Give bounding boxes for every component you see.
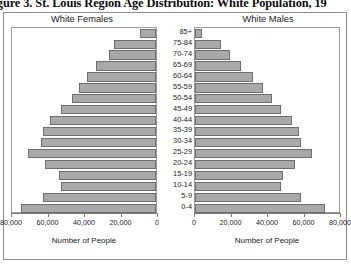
bar-row — [195, 39, 339, 50]
bar — [195, 204, 325, 213]
bar — [195, 182, 281, 191]
age-group-label: 25-29 — [157, 147, 192, 158]
bar-row — [12, 116, 156, 127]
bar-row — [12, 159, 156, 170]
bar — [195, 116, 292, 125]
x-axis-tick — [304, 213, 305, 217]
bar-row — [12, 192, 156, 203]
bar — [195, 72, 253, 81]
panel-heading-white-males: White Males — [192, 14, 344, 24]
bar-row — [195, 181, 339, 192]
plot-area-white-males — [194, 27, 340, 213]
x-axis-tick-label: 0 — [192, 218, 196, 227]
x-axis-tick-label: 60,000 — [37, 218, 59, 227]
bar — [61, 182, 156, 191]
bar — [195, 171, 283, 180]
bar-row — [12, 39, 156, 50]
bar — [28, 149, 156, 158]
bar — [140, 29, 156, 38]
age-group-label: 0-4 — [157, 202, 192, 213]
bar-row — [12, 94, 156, 105]
bar-series-white-females — [12, 28, 156, 212]
bar — [41, 138, 156, 147]
bar-row — [12, 126, 156, 137]
bar — [195, 50, 230, 59]
age-group-label: 40-44 — [157, 115, 192, 126]
bar-row — [12, 105, 156, 116]
bar-row — [12, 72, 156, 83]
age-group-label: 15-19 — [157, 169, 192, 180]
age-group-label: 85+ — [157, 27, 192, 38]
bar-row — [195, 148, 339, 159]
x-axis-tick — [340, 213, 341, 217]
age-group-label: 70-74 — [157, 49, 192, 60]
bar-row — [12, 61, 156, 72]
bar — [195, 105, 281, 114]
bar — [195, 160, 295, 169]
bar-row — [195, 105, 339, 116]
x-axis-tick-label: 80,000 — [329, 218, 351, 227]
bar — [195, 149, 312, 158]
bar — [195, 94, 272, 103]
bar — [96, 61, 156, 70]
bar-row — [195, 170, 339, 181]
age-group-label: 45-49 — [157, 104, 192, 115]
age-group-label: 55-59 — [157, 82, 192, 93]
bar — [109, 50, 156, 59]
bar-row — [195, 159, 339, 170]
age-group-label: 30-34 — [157, 136, 192, 147]
bar-row — [195, 83, 339, 94]
x-axis-tick — [11, 213, 12, 217]
bar — [79, 83, 156, 92]
bar-row — [195, 126, 339, 137]
figure-caption: Figure 3. St. Louis Region Age Distribut… — [0, 0, 327, 11]
x-axis-tick — [121, 213, 122, 217]
bar — [195, 29, 202, 38]
plot-area-white-females — [11, 27, 157, 213]
x-axis-tick-label: 20,000 — [220, 218, 242, 227]
bar — [59, 171, 156, 180]
bar — [114, 40, 156, 49]
bar-series-white-males — [195, 28, 339, 212]
bar — [45, 160, 156, 169]
bar-row — [12, 83, 156, 94]
x-axis-tick-label: 40,000 — [73, 218, 95, 227]
bar-row — [195, 94, 339, 105]
bar-row — [12, 137, 156, 148]
bar — [43, 127, 156, 136]
x-axis-tick — [157, 213, 158, 217]
age-group-label: 20-24 — [157, 158, 192, 169]
x-axis-title-females: Number of People — [11, 236, 157, 245]
x-axis-tick — [84, 213, 85, 217]
age-group-label: 10-14 — [157, 180, 192, 191]
bar — [61, 105, 156, 114]
bar-row — [195, 137, 339, 148]
bar — [195, 83, 263, 92]
age-group-label: 65-69 — [157, 60, 192, 71]
bar — [195, 138, 301, 147]
age-group-label: 60-64 — [157, 71, 192, 82]
bar — [50, 116, 156, 125]
figure-caption-strip: Figure 3. St. Louis Region Age Distribut… — [0, 0, 351, 11]
bar — [43, 193, 156, 202]
x-axis-tick — [194, 213, 195, 217]
bar — [87, 72, 156, 81]
age-group-label: 50-54 — [157, 93, 192, 104]
x-axis-tick-label: 0 — [155, 218, 159, 227]
bar-row — [195, 50, 339, 61]
bar-row — [12, 170, 156, 181]
x-axis-title-males: Number of People — [194, 236, 340, 245]
bar-row — [12, 181, 156, 192]
age-group-label: 35-39 — [157, 125, 192, 136]
x-axis-tick-label: 20,000 — [110, 218, 132, 227]
bar — [21, 204, 156, 213]
x-axis-tick-label: 60,000 — [293, 218, 315, 227]
bar-row — [195, 72, 339, 83]
bar-row — [12, 28, 156, 39]
bar — [195, 193, 301, 202]
age-group-axis: 85+75-8470-7465-6960-6455-5950-5445-4940… — [157, 27, 194, 213]
x-axis-tick — [267, 213, 268, 217]
age-group-label: 5-9 — [157, 191, 192, 202]
bar-row — [195, 116, 339, 127]
bar — [195, 61, 241, 70]
